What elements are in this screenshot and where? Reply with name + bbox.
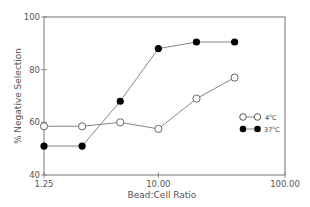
open-circle-icon <box>240 114 247 121</box>
x-tick-label: 10.00 <box>146 179 170 189</box>
legend: 4oC 37oC <box>240 113 280 134</box>
y-tick-label: 60 <box>29 117 40 127</box>
series-1 <box>40 38 238 149</box>
x-tick-label: 100.00 <box>270 179 300 189</box>
filled-circle-marker <box>40 142 47 149</box>
filled-circle-marker <box>79 142 86 149</box>
y-tick-label: 100 <box>24 12 40 22</box>
chart: 406080100 1.2510.00100.00 % Negative Sel… <box>0 0 310 207</box>
open-circle-marker <box>155 125 162 132</box>
series-line <box>44 42 235 146</box>
x-tick-label: 1.25 <box>35 179 54 189</box>
filled-circle-marker <box>231 38 238 45</box>
x-axis-title: Bead:Cell Ratio <box>128 190 197 200</box>
plot-frame <box>44 17 285 175</box>
open-circle-marker <box>193 95 200 102</box>
y-tick-label: 80 <box>29 65 40 75</box>
open-circle-marker <box>231 74 238 81</box>
legend-label-37c: 37oC <box>264 125 280 134</box>
filled-circle-marker <box>117 98 124 105</box>
open-circle-marker <box>117 119 124 126</box>
series-line <box>44 78 235 129</box>
series-0 <box>40 74 238 133</box>
legend-label-4c: 4oC <box>265 113 277 122</box>
plot-border <box>44 17 285 175</box>
open-circle-icon <box>254 114 261 121</box>
legend-item-4c: 4oC <box>240 113 277 122</box>
y-axis-title: % Negative Selection <box>13 48 23 144</box>
legend-item-37c: 37oC <box>240 125 280 134</box>
series-group <box>40 38 238 149</box>
filled-circle-marker <box>155 45 162 52</box>
filled-circle-marker <box>193 38 200 45</box>
filled-circle-icon <box>240 126 247 133</box>
open-circle-marker <box>40 123 47 130</box>
open-circle-marker <box>79 123 86 130</box>
filled-circle-icon <box>254 126 261 133</box>
